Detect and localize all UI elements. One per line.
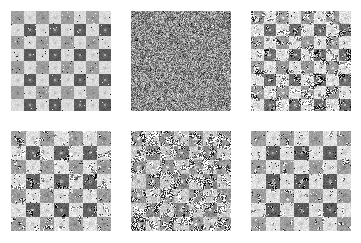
- panel-image-6: [251, 131, 351, 231]
- heatmap-panel-4: [11, 131, 111, 231]
- heatmap-panel-3: [251, 11, 351, 111]
- panel-image-1: [11, 11, 111, 111]
- heatmap-panel-6: [251, 131, 351, 231]
- figure-canvas: [0, 0, 361, 243]
- panel-image-2: [131, 11, 231, 111]
- panel-image-4: [11, 131, 111, 231]
- heatmap-panel-1: [11, 11, 111, 111]
- panel-image-3: [251, 11, 351, 111]
- heatmap-panel-5: [131, 131, 231, 231]
- heatmap-panel-2: [131, 11, 231, 111]
- panel-image-5: [131, 131, 231, 231]
